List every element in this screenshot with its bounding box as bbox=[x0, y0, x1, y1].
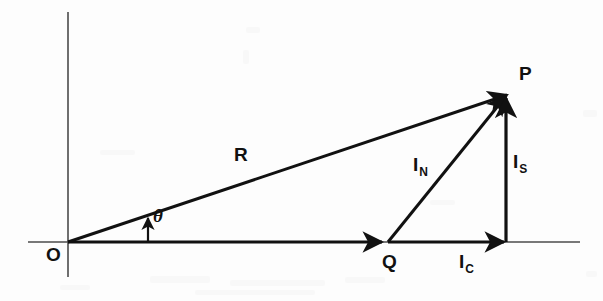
label-in-subscript: N bbox=[419, 165, 428, 179]
label-is-subscript: S bbox=[519, 162, 527, 176]
vector-r bbox=[68, 95, 507, 242]
label-point-q: Q bbox=[382, 252, 397, 271]
vector-in bbox=[388, 96, 506, 242]
label-theta: θ bbox=[153, 206, 163, 225]
label-ic-base: I bbox=[459, 251, 464, 272]
label-ic-subscript: C bbox=[465, 262, 474, 276]
label-is-base: I bbox=[513, 151, 518, 172]
label-is: IS bbox=[513, 152, 526, 171]
label-in-base: I bbox=[413, 154, 418, 175]
label-ic: IC bbox=[459, 252, 473, 271]
phasor-diagram-figure: O θ R Q P IC IN IS bbox=[0, 0, 603, 301]
label-resultant: R bbox=[234, 145, 248, 164]
label-in: IN bbox=[413, 155, 427, 174]
label-origin: O bbox=[46, 245, 61, 264]
label-point-p: P bbox=[519, 64, 532, 83]
